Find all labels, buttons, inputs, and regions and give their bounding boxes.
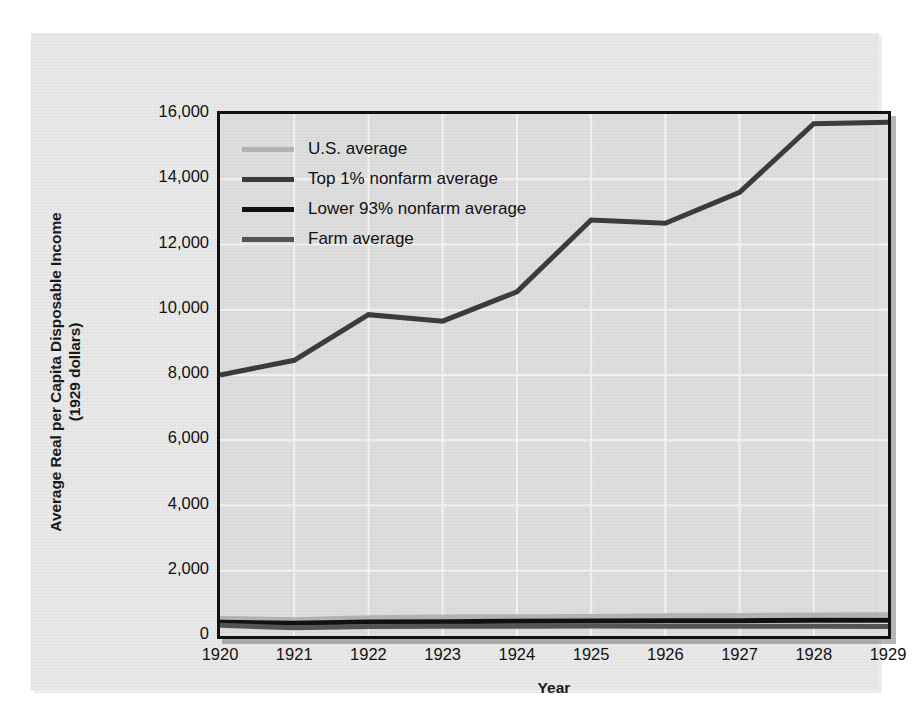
x-tick-label: 1927 <box>705 645 775 664</box>
y-tick-label: 16,000 <box>129 102 209 121</box>
y-tick-label: 8,000 <box>129 363 209 382</box>
legend-item: Farm average <box>242 224 572 254</box>
y-tick-label: 6,000 <box>129 428 209 447</box>
x-tick-label: 1920 <box>185 645 255 664</box>
y-axis-tick-labels: 02,0004,0006,0008,00010,00012,00014,0001… <box>127 111 209 633</box>
legend-swatch-icon <box>242 207 294 212</box>
y-axis-title: Average Real per Capita Disposable Incom… <box>43 111 87 633</box>
series-line-3 <box>220 625 888 628</box>
x-tick-label: 1929 <box>853 645 917 664</box>
legend-label: Top 1% nonfarm average <box>308 169 498 189</box>
x-tick-label: 1924 <box>482 645 552 664</box>
legend-item: U.S. average <box>242 134 572 164</box>
plot-area: U.S. averageTop 1% nonfarm averageLower … <box>217 111 891 639</box>
legend-label: U.S. average <box>308 139 407 159</box>
y-tick-label: 0 <box>129 624 209 643</box>
legend-item: Top 1% nonfarm average <box>242 164 572 194</box>
y-axis-title-line-2: (1929 dollars) <box>65 323 84 422</box>
y-tick-label: 14,000 <box>129 167 209 186</box>
y-tick-label: 12,000 <box>129 232 209 251</box>
legend-label: Farm average <box>308 229 414 249</box>
legend-swatch-icon <box>242 237 294 242</box>
x-tick-label: 1921 <box>259 645 329 664</box>
y-tick-label: 2,000 <box>129 558 209 577</box>
y-tick-label: 4,000 <box>129 493 209 512</box>
legend-item: Lower 93% nonfarm average <box>242 194 572 224</box>
x-tick-label: 1923 <box>408 645 478 664</box>
x-tick-label: 1926 <box>630 645 700 664</box>
y-tick-label: 10,000 <box>129 297 209 316</box>
x-axis-title: Year <box>220 679 888 697</box>
x-tick-label: 1922 <box>333 645 403 664</box>
figure-card: Average Real per Capita Disposable Incom… <box>31 33 879 690</box>
legend: U.S. averageTop 1% nonfarm averageLower … <box>242 134 572 254</box>
legend-swatch-icon <box>242 177 294 182</box>
legend-label: Lower 93% nonfarm average <box>308 199 526 219</box>
x-tick-label: 1925 <box>556 645 626 664</box>
series-line-2 <box>220 620 888 623</box>
x-axis-tick-labels: 1920192119221923192419251926192719281929 <box>220 645 888 669</box>
y-axis-title-line-1: Average Real per Capita Disposable Incom… <box>46 212 65 531</box>
legend-swatch-icon <box>242 147 294 152</box>
x-tick-label: 1928 <box>779 645 849 664</box>
